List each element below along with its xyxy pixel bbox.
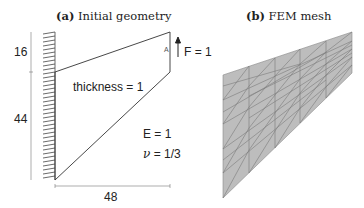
dim-44-label: 44 [14, 112, 27, 126]
wall-hatching [43, 32, 55, 180]
caption-a-prefix: (a) [56, 9, 74, 23]
caption-b-text: FEM mesh [269, 9, 332, 23]
dim-16-label: 16 [14, 45, 27, 59]
figure-drawing [0, 0, 364, 208]
dim-48-label: 48 [104, 190, 117, 204]
point-a-label: A [164, 46, 169, 53]
nu-value: = 1/3 [150, 147, 180, 161]
caption-a: (a) Initial geometry [56, 9, 172, 23]
poisson-ratio-label: ν = 1/3 [143, 147, 181, 161]
fem-mesh [223, 32, 352, 198]
youngs-modulus-label: E = 1 [143, 127, 171, 141]
force-arrow-icon [176, 37, 181, 57]
caption-b-prefix: (b) [246, 9, 265, 23]
thickness-label: thickness = 1 [73, 80, 143, 94]
force-label: F = 1 [184, 45, 212, 59]
figure: (a) Initial geometry (b) FEM mesh 16 44 … [0, 0, 364, 208]
caption-a-text: Initial geometry [78, 9, 172, 23]
caption-b: (b) FEM mesh [246, 9, 331, 23]
